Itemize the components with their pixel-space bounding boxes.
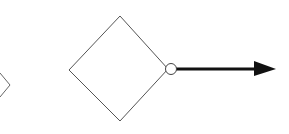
arrow-head-icon (254, 61, 276, 76)
diagram-canvas (0, 0, 289, 134)
partial-diamond-left (0, 73, 10, 97)
decision-diamond (69, 16, 168, 121)
connector-port-circle (166, 64, 177, 75)
